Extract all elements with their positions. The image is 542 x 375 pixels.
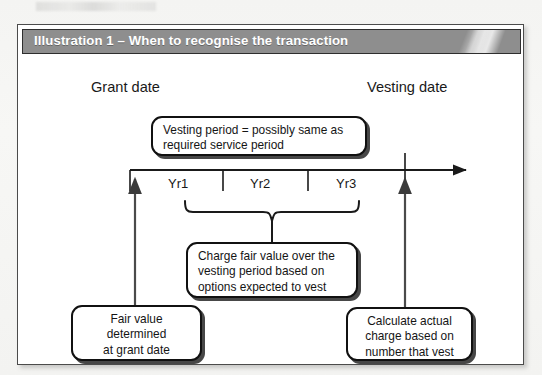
illustration-frame: Illustration 1 – When to recognise the t… bbox=[17, 24, 524, 365]
timeline-segment-label-yr2: Yr2 bbox=[250, 176, 270, 191]
callout-charge-fair-value-line1: Charge fair value over the bbox=[198, 249, 347, 264]
vesting-period-brace bbox=[185, 201, 359, 221]
callout-vesting-period-line1: Vesting period = possibly same as bbox=[163, 123, 356, 138]
diagram-canvas: Grant date Vesting date bbox=[18, 58, 525, 366]
callout-charge-fair-value-line2: vesting period based on bbox=[198, 264, 347, 279]
callout-vesting-period-line2: required service period bbox=[163, 138, 356, 153]
callout-fair-value-grant-date: Fair value determined at grant date bbox=[71, 305, 202, 361]
timeline-segment-label-yr1: Yr1 bbox=[168, 176, 188, 191]
callout-calculate-line1: Calculate actual bbox=[356, 314, 463, 329]
callout-charge-fair-value: Charge fair value over the vesting perio… bbox=[186, 242, 358, 298]
illustration-title: Illustration 1 – When to recognise the t… bbox=[34, 33, 348, 48]
timeline-segment-label-yr3: Yr3 bbox=[336, 176, 356, 191]
scan-artifact-top bbox=[36, 2, 156, 11]
scan-glare-streak bbox=[428, 29, 521, 54]
callout-vesting-period: Vesting period = possibly same as requir… bbox=[151, 116, 367, 156]
callout-calculate-actual-charge: Calculate actual charge based on number … bbox=[346, 307, 473, 361]
callout-calculate-line3: number that vest bbox=[356, 345, 463, 360]
scan-glare-streak-secondary bbox=[436, 29, 506, 54]
callout-fair-value-line1: Fair value bbox=[81, 312, 192, 327]
illustration-header-bar: Illustration 1 – When to recognise the t… bbox=[22, 29, 521, 54]
callout-calculate-line2: charge based on bbox=[356, 329, 463, 344]
callout-fair-value-line2: determined bbox=[81, 327, 192, 342]
callout-charge-fair-value-line3: options expected to vest bbox=[198, 280, 347, 295]
callout-fair-value-line3: at grant date bbox=[81, 343, 192, 358]
